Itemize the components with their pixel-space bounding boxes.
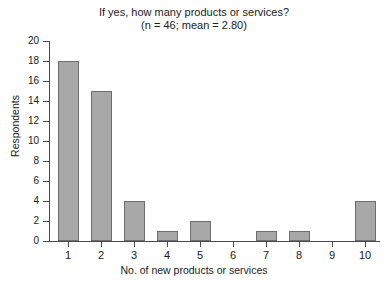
y-axis-tick (43, 221, 49, 222)
bar (124, 201, 145, 241)
x-axis-tick-label: 2 (86, 249, 116, 261)
x-axis-tick (68, 242, 69, 247)
y-axis-tick-label: 4 (0, 196, 39, 206)
x-axis-tick-label: 1 (53, 249, 83, 261)
chart-subtitle: (n = 46; mean = 2.80) (0, 19, 388, 32)
bar (256, 231, 277, 241)
y-axis-tick (43, 241, 49, 242)
x-axis-tick-label: 5 (185, 249, 215, 261)
y-axis-tick (43, 121, 49, 122)
y-axis-tick (43, 81, 49, 82)
y-axis-tick-label: 14 (0, 96, 39, 106)
x-axis-tick (365, 242, 366, 247)
y-axis-tick-label: 20 (0, 36, 39, 46)
y-axis-tick-label: 16 (0, 76, 39, 86)
x-axis-tick-label: 6 (218, 249, 248, 261)
x-axis-tick (200, 242, 201, 247)
bar (91, 91, 112, 241)
x-axis-tick (299, 242, 300, 247)
x-axis-tick (134, 242, 135, 247)
x-axis-title: No. of new products or services (0, 264, 388, 276)
y-axis-tick (43, 101, 49, 102)
bar (190, 221, 211, 241)
y-axis-tick-label: 12 (0, 116, 39, 126)
chart-title-block: If yes, how many products or services? (… (0, 6, 388, 32)
x-axis-tick (233, 242, 234, 247)
bar (58, 61, 79, 241)
y-axis-tick-label: 0 (0, 236, 39, 246)
x-axis-tick-label: 7 (251, 249, 281, 261)
x-axis-tick-label: 3 (119, 249, 149, 261)
y-axis-tick (43, 141, 49, 142)
x-axis-tick (332, 242, 333, 247)
x-axis-tick-label: 4 (152, 249, 182, 261)
y-axis-line (49, 41, 50, 242)
x-axis-line (49, 241, 380, 242)
x-axis-tick (266, 242, 267, 247)
y-axis-tick-label: 18 (0, 56, 39, 66)
y-axis-tick (43, 181, 49, 182)
x-axis-tick-label: 8 (284, 249, 314, 261)
x-axis-tick (167, 242, 168, 247)
y-axis-tick (43, 161, 49, 162)
x-axis-tick (101, 242, 102, 247)
chart-title: If yes, how many products or services? (0, 6, 388, 19)
bar (157, 231, 178, 241)
y-axis-tick (43, 201, 49, 202)
y-axis-tick-label: 2 (0, 216, 39, 226)
x-axis-tick-label: 10 (350, 249, 380, 261)
y-axis-tick-label: 6 (0, 176, 39, 186)
x-axis-tick-label: 9 (317, 249, 347, 261)
y-axis-tick-label: 10 (0, 136, 39, 146)
bar (355, 201, 376, 241)
bar-chart-figure: If yes, how many products or services? (… (0, 0, 388, 284)
y-axis-tick (43, 41, 49, 42)
bar (289, 231, 310, 241)
y-axis-tick-label: 8 (0, 156, 39, 166)
y-axis-tick (43, 61, 49, 62)
